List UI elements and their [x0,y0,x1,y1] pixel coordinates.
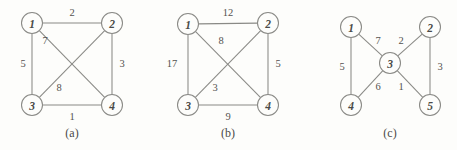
graph-a-node-label-4: 4 [108,100,115,112]
graph-c-weight-1-3: 7 [375,35,380,46]
graph-figure-canvas: 1234123412345 25783112178359726153 (a)(b… [0,0,457,150]
graph-c-node-label-4: 4 [347,100,354,112]
graph-caption-b: (b) [221,126,235,140]
graph-b-node-label-1: 1 [185,19,191,31]
graph-c-node-label-3: 3 [386,58,393,70]
graph-b-weight-1-3: 17 [167,58,178,69]
graph-a-node-label-3: 3 [28,100,35,112]
graph-a-node-label-2: 2 [108,18,115,30]
graph-b-node-label-2: 2 [264,18,271,30]
graph-a-weight-2-3: 8 [56,82,61,93]
graph-a-weight-2-4: 3 [119,58,124,69]
graph-a-node-label-1: 1 [29,18,35,30]
graph-a-weight-1-2: 2 [69,7,74,18]
figure-root: 1234123412345 25783112178359726153 (a)(b… [0,0,457,150]
graph-a-weight-3-4: 1 [69,111,74,122]
graph-caption-c: (c) [383,126,396,140]
graph-b-weight-1-4: 8 [218,35,223,46]
graph-b-weight-2-3: 3 [212,82,217,93]
graph-b-weight-1-2: 12 [223,7,234,18]
graph-b-node-label-4: 4 [264,100,271,112]
graph-a-weight-1-4: 7 [42,35,47,46]
graph-c-weight-2-3: 2 [398,35,403,46]
graph-b-weight-3-4: 9 [225,111,230,122]
graph-b-weight-2-4: 5 [275,58,280,69]
graph-c-weight-3-4: 6 [375,81,380,92]
graph-b-edge-1-2 [198,23,257,24]
graph-c-weight-2-5: 3 [437,61,442,72]
captions-layer: (a)(b)(c) [65,126,396,140]
graph-c-weight-1-4: 5 [339,61,344,72]
nodes-layer: 1234123412345 [22,13,441,116]
graph-c-node-label-5: 5 [427,100,433,112]
graph-c-node-label-2: 2 [426,22,433,34]
graph-c-weight-3-5: 1 [398,81,403,92]
edges-layer [32,23,430,105]
graph-c-node-label-1: 1 [348,22,354,34]
graph-a-weight-1-3: 5 [20,58,25,69]
graph-caption-a: (a) [65,126,78,140]
graph-b-node-label-3: 3 [184,100,191,112]
